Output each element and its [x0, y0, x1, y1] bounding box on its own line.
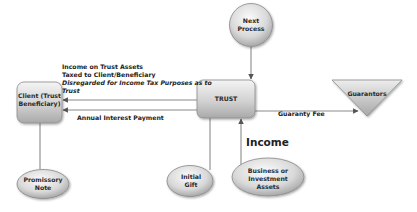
promissory-note-line2: Note	[35, 184, 52, 191]
business-assets-line3: Assets	[257, 183, 280, 190]
initial-gift-line2: Gift	[185, 181, 198, 188]
node-client[interactable]: Client (Trust Beneficiary)	[17, 82, 62, 123]
guarantors-label: Guarantors	[347, 90, 387, 97]
label-annual-interest-payment: Annual Interest Payment	[77, 114, 164, 122]
label-taxed-to-client: Taxed to Client/Beneficiary	[62, 71, 155, 79]
node-next-process[interactable]: Next Process	[230, 4, 273, 47]
business-assets-line1: Business or	[248, 167, 289, 174]
label-disregarded-trust: Trust	[62, 87, 81, 94]
node-business-assets[interactable]: Business or Investment Assets	[232, 158, 304, 196]
next-process-line2: Process	[237, 25, 264, 32]
label-income-trust-assets: Income on Trust Assets	[62, 63, 143, 70]
promissory-note-line1: Promissory	[23, 176, 62, 184]
trust-flow-diagram: Next Process Client (Trust Beneficiary) …	[0, 0, 417, 212]
business-assets-line2: Investment	[248, 175, 288, 182]
trust-label: TRUST	[215, 95, 238, 102]
next-process-line1: Next	[243, 17, 259, 24]
node-promissory-note[interactable]: Promissory Note	[17, 170, 69, 199]
client-line2: Beneficiary)	[19, 100, 61, 108]
label-disregarded: Disregarded for Income Tax Purposes as t…	[62, 79, 213, 87]
label-income: Income	[246, 136, 289, 148]
node-initial-gift[interactable]: Initial Gift	[167, 166, 213, 197]
label-guaranty-fee: Guaranty Fee	[278, 110, 325, 118]
client-line1: Client (Trust	[18, 92, 61, 99]
initial-gift-line1: Initial	[181, 173, 201, 180]
